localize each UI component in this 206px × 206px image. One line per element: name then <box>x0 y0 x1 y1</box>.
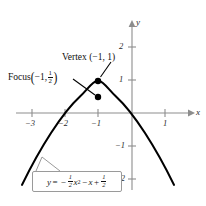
focus-coord-x: −1, <box>35 72 47 82</box>
y-tick-label-1: 1 <box>119 75 123 84</box>
vertex-annotation-label: Vertex (−1, 1) <box>62 53 115 63</box>
x-tick-label--1: −1 <box>91 119 101 128</box>
equation-callout-box: y=−12x2−x+12 <box>32 171 122 192</box>
focus-open-paren: ( <box>31 71 35 85</box>
y-tick-label-2: 2 <box>119 42 123 51</box>
equation-minus-1: − <box>59 177 67 187</box>
focus-frac-numerator: 1 <box>48 70 53 77</box>
x-axis <box>16 109 195 117</box>
equation-equals: = <box>51 177 59 187</box>
x-tick-label--3: −3 <box>25 119 35 128</box>
focus-prefix: Focus <box>8 72 31 82</box>
focus-fraction: 12 <box>48 70 53 85</box>
x-axis-label: x <box>196 108 200 117</box>
vertex-leader-line <box>101 62 112 77</box>
equation-minus-2: − <box>81 177 89 187</box>
equation-leader-line <box>36 157 60 171</box>
focus-point <box>95 94 101 100</box>
focus-close-paren: ) <box>53 71 57 85</box>
equation-const-numerator: 1 <box>101 174 106 181</box>
parabola-figure: x y −3 −2 −1 1 2 1 −1 −2 Vertex (−1, 1) … <box>0 0 206 206</box>
x-tick-label-1: 1 <box>163 119 167 128</box>
equation-const-denominator: 2 <box>101 181 106 189</box>
y-axis-label: y <box>136 18 140 27</box>
focus-annotation-label: Focus(−1,12) <box>8 70 57 85</box>
x-tick-label--2: −2 <box>58 119 68 128</box>
equation-constant-fraction: 12 <box>101 174 106 188</box>
focus-frac-denominator: 2 <box>48 77 53 85</box>
equation-plus: + <box>93 177 101 187</box>
vertex-point <box>95 78 101 84</box>
y-axis <box>128 20 136 190</box>
y-tick-label--1: −1 <box>115 141 125 150</box>
